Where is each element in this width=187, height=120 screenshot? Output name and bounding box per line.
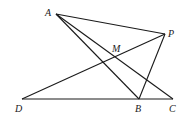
label-A: A	[45, 8, 51, 18]
label-C: C	[169, 104, 176, 114]
label-D: D	[15, 104, 22, 114]
segment-PD	[22, 34, 165, 99]
label-B: B	[135, 104, 141, 114]
geometry-diagram: A P M D B C	[0, 0, 187, 120]
label-M: M	[112, 44, 120, 54]
label-P: P	[168, 29, 174, 39]
diagram-lines	[0, 0, 187, 120]
